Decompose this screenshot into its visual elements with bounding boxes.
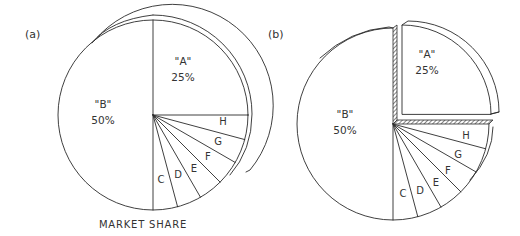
svg-text:"B": "B"	[337, 108, 354, 120]
slice-H-label-b: H	[462, 130, 470, 141]
slice-E-label-b: E	[433, 177, 439, 188]
panel-label-b: (b)	[268, 28, 284, 41]
chart-caption: MARKET SHARE	[99, 219, 187, 230]
slice-G-label-a: G	[214, 136, 222, 147]
svg-text:"A": "A"	[175, 55, 192, 67]
slice-H-label-a: H	[219, 116, 227, 127]
svg-text:"B": "B"	[95, 98, 112, 110]
svg-text:50%: 50%	[333, 124, 356, 136]
slice-C-label-a: C	[158, 174, 165, 185]
svg-text:25%: 25%	[415, 64, 438, 76]
slice-C-label-b: C	[400, 188, 407, 199]
pie-b-hatched-face-vertical	[393, 25, 397, 124]
pie-a-slice-lines	[153, 20, 248, 210]
slice-G-label-b: G	[454, 149, 462, 160]
pie-a-rim-outer	[153, 15, 252, 175]
pie-b-rim-top	[320, 27, 393, 58]
slice-D-label-a: D	[174, 169, 182, 180]
slice-B-label-a: "B" 50%	[91, 98, 114, 126]
pie-b-slice-lines	[393, 124, 486, 220]
slice-F-label-b: F	[445, 165, 451, 176]
slice-E-label-a: E	[191, 163, 197, 174]
slice-B-label-b: "B" 50%	[333, 108, 356, 136]
market-share-illustration: (a) "A" 25% "B" 50% H G F	[0, 0, 520, 236]
svg-text:50%: 50%	[91, 114, 114, 126]
panel-label-a: (a)	[25, 28, 40, 41]
slice-A-label-a: "A" 25%	[171, 55, 194, 83]
slice-F-label-a: F	[205, 151, 211, 162]
pie-b-hatched-face-horizontal	[393, 120, 493, 124]
svg-text:25%: 25%	[171, 71, 194, 83]
pie-a-rim-outer-left	[92, 15, 153, 43]
pie-chart-b: (b) "A" 25%	[268, 21, 499, 220]
pie-b-rim-right	[470, 127, 493, 180]
pie-chart-a: (a) "A" 25% "B" 50% H G F	[25, 4, 273, 230]
slice-D-label-b: D	[416, 185, 424, 196]
slice-A-label-b: "A" 25%	[415, 48, 438, 76]
svg-text:"A": "A"	[419, 48, 436, 60]
